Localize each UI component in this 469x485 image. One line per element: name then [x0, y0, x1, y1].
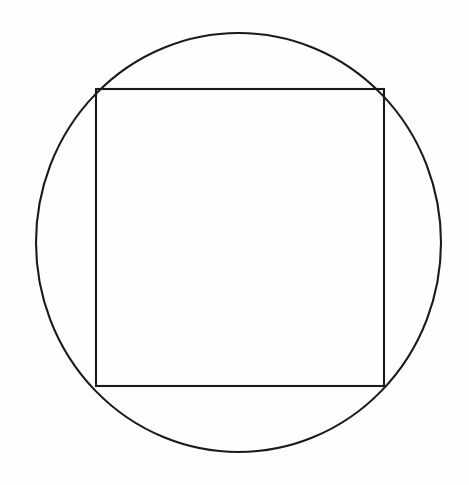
figure-svg — [0, 0, 469, 485]
figure-background — [0, 0, 469, 485]
geometry-figure-canvas: Square inscribed in a circle — [0, 0, 469, 485]
